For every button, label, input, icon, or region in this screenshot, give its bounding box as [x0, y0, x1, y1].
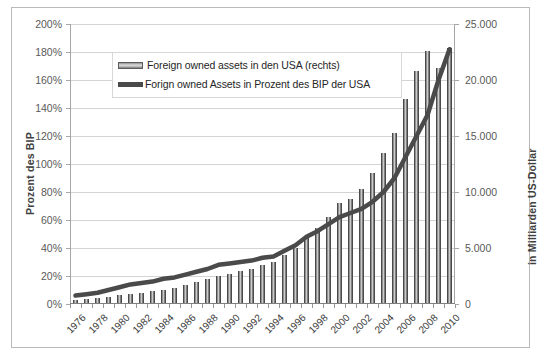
x-axis-tick — [411, 304, 412, 308]
y-axis-left-tick-label: 180% — [14, 46, 62, 58]
bar — [161, 290, 166, 303]
y-axis-left-tick-label: 60% — [14, 214, 62, 226]
x-axis-tick — [345, 304, 346, 308]
bar — [447, 48, 452, 303]
y-axis-right-tick-label: 25.000 — [465, 18, 521, 30]
legend-item-line-label: Forign owned Assets in Prozent des BIP d… — [145, 78, 370, 90]
bar — [359, 189, 364, 303]
x-axis-tick — [114, 304, 115, 308]
x-axis-line — [70, 303, 455, 304]
gridline — [70, 108, 455, 109]
legend-item-line: Forign owned Assets in Prozent des BIP d… — [118, 76, 396, 92]
y-axis-right-tick — [455, 80, 459, 81]
bar — [227, 274, 232, 303]
y-axis-left-tick — [66, 248, 70, 249]
bar — [326, 217, 331, 303]
x-axis-tick — [301, 304, 302, 308]
bar — [238, 271, 243, 303]
x-axis-tick — [389, 304, 390, 308]
bar — [381, 153, 386, 303]
bar — [172, 288, 177, 303]
y-axis-left-tick — [66, 136, 70, 137]
x-axis-tick — [400, 304, 401, 308]
bar — [282, 255, 287, 303]
bar — [337, 203, 342, 303]
y-axis-left-tick — [66, 52, 70, 53]
gridline — [70, 24, 455, 25]
x-axis-tick — [224, 304, 225, 308]
x-axis-tick — [103, 304, 104, 308]
y-axis-right-tick-label: 20.000 — [465, 74, 521, 86]
x-axis-tick — [180, 304, 181, 308]
x-axis-tick — [257, 304, 258, 308]
bar — [315, 228, 320, 303]
gridline — [70, 248, 455, 249]
bar — [392, 133, 397, 303]
x-axis-tick — [202, 304, 203, 308]
y-axis-left-tick-label: 80% — [14, 186, 62, 198]
x-axis-tick — [334, 304, 335, 308]
gridline — [70, 192, 455, 193]
x-axis-tick — [92, 304, 93, 308]
y-axis-left-tick — [66, 276, 70, 277]
bar — [370, 173, 375, 303]
y-axis-left-tick — [66, 192, 70, 193]
x-axis-tick — [191, 304, 192, 308]
x-axis-tick — [279, 304, 280, 308]
gridline — [70, 136, 455, 137]
y-axis-left-tick-label: 0% — [14, 298, 62, 310]
y-axis-left-tick — [66, 164, 70, 165]
bar — [304, 237, 309, 303]
y-axis-left-tick-label: 120% — [14, 130, 62, 142]
y-axis-title-left: Prozent des BIP — [24, 132, 36, 215]
bar — [414, 71, 419, 303]
y-axis-left-tick-label: 40% — [14, 242, 62, 254]
y-axis-right-tick-label: 15.000 — [465, 130, 521, 142]
legend-item-bars: Foreign owned assets in den USA (rechts) — [118, 57, 396, 73]
x-axis-tick — [290, 304, 291, 308]
bar — [117, 295, 122, 303]
x-axis-tick — [235, 304, 236, 308]
x-axis-tick — [268, 304, 269, 308]
y-axis-title-right: in Milliarden US-Dollar — [526, 148, 538, 265]
x-axis-tick — [158, 304, 159, 308]
y-axis-right-tick — [455, 192, 459, 193]
y-axis-right-tick-label: 10.000 — [465, 186, 521, 198]
y-axis-right-tick — [455, 136, 459, 137]
x-axis-tick — [356, 304, 357, 308]
x-axis-tick — [444, 304, 445, 308]
x-axis-tick — [455, 304, 456, 308]
bar — [293, 248, 298, 303]
bar — [139, 293, 144, 303]
y-axis-left-line — [70, 24, 71, 304]
x-axis-tick — [136, 304, 137, 308]
y-axis-right-tick — [455, 24, 459, 25]
bar — [194, 282, 199, 303]
bar — [205, 279, 210, 303]
bar — [348, 199, 353, 303]
x-axis-tick — [433, 304, 434, 308]
x-axis-tick — [81, 304, 82, 308]
x-axis-tick — [323, 304, 324, 308]
y-axis-left-tick-label: 100% — [14, 158, 62, 170]
bar — [436, 68, 441, 303]
y-axis-left-tick — [66, 24, 70, 25]
y-axis-right-tick — [455, 248, 459, 249]
y-axis-left-tick — [66, 220, 70, 221]
y-axis-left-tick-label: 160% — [14, 74, 62, 86]
chart-legend: Foreign owned assets in den USA (rechts)… — [112, 52, 402, 98]
y-axis-left-tick — [66, 108, 70, 109]
y-axis-right-tick-label: 5.000 — [465, 242, 521, 254]
bar — [403, 99, 408, 303]
bar — [216, 276, 221, 303]
y-axis-right-tick-label: 0 — [465, 298, 521, 310]
y-axis-left-tick-label: 140% — [14, 102, 62, 114]
bar — [425, 51, 430, 303]
bar — [128, 294, 133, 303]
legend-bar-swatch-icon — [118, 62, 143, 69]
x-axis-tick — [213, 304, 214, 308]
bar — [150, 291, 155, 303]
y-axis-title-right-text: in Milliarden US-Dollar — [526, 148, 538, 265]
x-axis-tick — [246, 304, 247, 308]
y-axis-title-left-text: Prozent des BIP — [24, 132, 36, 215]
